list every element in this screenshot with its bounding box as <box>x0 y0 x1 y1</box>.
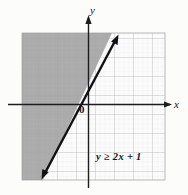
coordinate-plane <box>0 0 188 195</box>
y-axis-arrowhead <box>85 15 91 24</box>
y-axis-label: y <box>90 5 95 16</box>
inequality-graph-figure: y x 0 y ≥ 2x + 1 <box>0 0 188 195</box>
inequality-label: y ≥ 2x + 1 <box>96 151 142 162</box>
x-axis-label: x <box>174 99 179 110</box>
origin-label: 0 <box>79 104 85 115</box>
grid-major <box>22 33 165 180</box>
x-axis-arrowhead <box>164 101 172 107</box>
